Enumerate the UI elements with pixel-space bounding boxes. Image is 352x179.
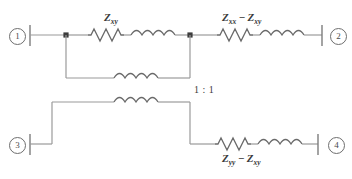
resistor-zxy	[88, 29, 124, 41]
inductor-zyy-minus-zxy	[258, 140, 302, 145]
transformer-secondary-coil	[114, 98, 158, 103]
resistor-zyy-minus-zxy	[215, 138, 251, 150]
label-branch-bottom-right: Zyy−Zxy	[222, 153, 261, 167]
label-zyy-base: Z	[222, 152, 229, 164]
schematic-canvas	[0, 0, 352, 179]
transformer-ratio-label: 1 : 1	[194, 85, 214, 95]
label-zxy-sub: xy	[111, 17, 118, 26]
resistor-zxx-minus-zxy	[217, 29, 253, 41]
transformer-primary-coil	[114, 74, 158, 79]
label-minus-operator-top: −	[236, 11, 247, 23]
label-zxy2-sub: xy	[254, 17, 261, 26]
inductor-zxx-minus-zxy	[260, 31, 304, 36]
label-zxx-base: Z	[222, 11, 229, 23]
port-2-label: 2	[330, 28, 347, 45]
label-branch-top-right: Zxx−Zxy	[222, 12, 261, 26]
circuit-diagram: 1 2 3 4 Zxy Zxx−Zxy Zyy−Zxy 1 : 1	[0, 0, 352, 179]
inductor-zxy	[131, 31, 175, 36]
label-zxy3-sub: xy	[253, 158, 260, 167]
label-branch-top-left: Zxy	[104, 12, 118, 26]
port-1-label: 1	[9, 28, 26, 45]
port-3-label: 3	[9, 137, 26, 154]
port-4-label: 4	[328, 137, 345, 154]
label-zxy-base: Z	[104, 11, 111, 23]
label-minus-operator-bottom: −	[235, 152, 246, 164]
